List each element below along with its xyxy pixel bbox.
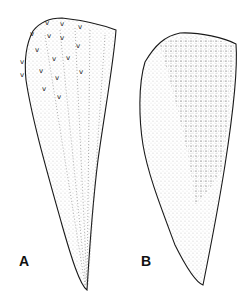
figure-illustration: vvv vvv vvv vvv vvv vv [0,0,251,295]
svg-text:v: v [78,23,82,31]
svg-text:v: v [42,85,46,93]
svg-text:v: v [60,34,64,42]
scale-a-outline [25,18,116,290]
scale-a: vvv vvv vvv vvv vvv vv [20,18,116,290]
svg-text:v: v [55,74,59,82]
svg-text:v: v [47,32,51,40]
svg-text:v: v [66,54,70,62]
svg-text:v: v [57,93,61,101]
svg-text:v: v [20,71,24,79]
svg-text:v: v [79,68,83,76]
svg-text:v: v [52,55,56,63]
svg-text:v: v [60,20,64,28]
svg-text:v: v [20,58,24,66]
svg-text:v: v [35,46,39,54]
panel-label-b: B [141,253,151,269]
panel-label-a: A [19,253,29,269]
svg-text:v: v [45,19,49,27]
svg-text:v: v [39,67,43,75]
svg-text:v: v [30,30,34,38]
svg-text:v: v [76,42,80,50]
scale-b [140,33,237,285]
